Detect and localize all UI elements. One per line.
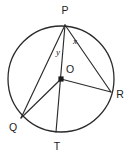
- angle-label-y: y: [55, 47, 60, 57]
- vertex-label-t: T: [54, 140, 61, 152]
- vertex-label-r: R: [116, 88, 124, 100]
- vertex-label-o: O: [66, 63, 74, 75]
- vertex-label-q: Q: [9, 121, 17, 133]
- segment-o-q: [21, 79, 61, 118]
- vertex-label-p: P: [61, 4, 68, 16]
- angle-label-x: x: [72, 36, 77, 46]
- geometry-figure: P R Q T O x y: [0, 0, 132, 155]
- center-point-marker: [58, 76, 63, 81]
- geometry-canvas: P R Q T O x y: [0, 0, 132, 155]
